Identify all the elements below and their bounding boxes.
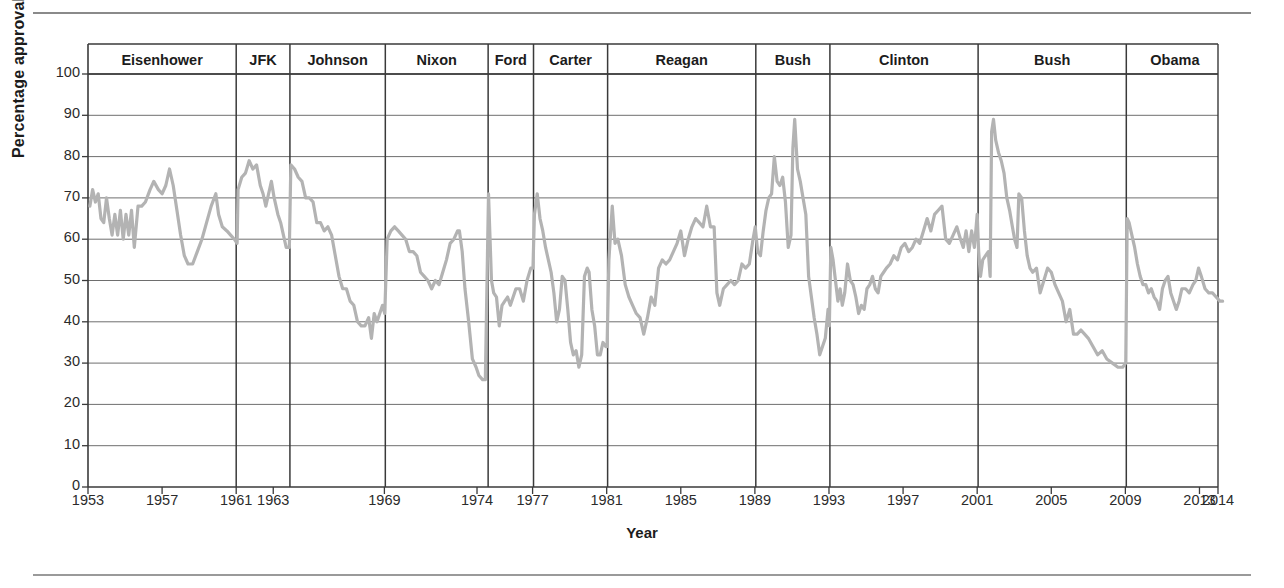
data-line-presidential-job-approval bbox=[90, 119, 1223, 379]
approval-rating-chart: Percentage approval Year 100908070605040… bbox=[0, 0, 1284, 588]
plot-area bbox=[0, 0, 1284, 588]
